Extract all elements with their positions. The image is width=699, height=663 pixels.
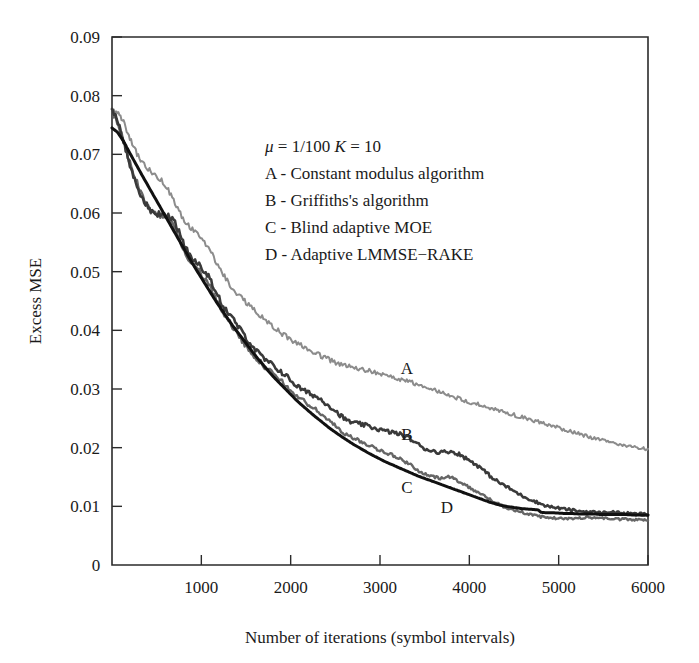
curve-label-b: B: [401, 425, 412, 444]
curve-label-a: A: [401, 359, 414, 378]
x-tick-label: 1000: [184, 578, 218, 597]
y-tick-label: 0.06: [70, 204, 100, 223]
k-value: = 10: [346, 137, 381, 156]
y-tick-label: 0.01: [70, 497, 100, 516]
x-tick-label: 2000: [274, 578, 308, 597]
y-tick-label: 0.04: [70, 321, 100, 340]
x-tick-label: 4000: [452, 578, 486, 597]
y-tick-label: 0.09: [70, 28, 100, 47]
x-tick-label: 5000: [542, 578, 576, 597]
legend-entry-c: C - Blind adaptive MOE: [265, 218, 432, 237]
excess-mse-line-chart: 0100020003000400050006000 0.010.020.030.…: [0, 0, 699, 663]
y-tick-label: 0.05: [70, 263, 100, 282]
legend-entry-a: A - Constant modulus algorithm: [265, 164, 484, 183]
y-tick-label: 0.07: [70, 145, 100, 164]
curve-label-d: D: [441, 498, 453, 517]
chart-background: [0, 0, 699, 663]
mu-symbol: μ: [264, 137, 274, 156]
x-axis-title: Number of iterations (symbol intervals): [245, 628, 515, 647]
x-tick-label: 3000: [363, 578, 397, 597]
chart-figure: 0100020003000400050006000 0.010.020.030.…: [0, 0, 699, 663]
y-tick-label: 0.03: [70, 380, 100, 399]
legend-entry-b: B - Griffiths's algorithm: [265, 191, 429, 210]
x-tick-label: 6000: [631, 578, 665, 597]
legend-parameters: μ = 1/100 K = 10: [264, 137, 381, 156]
y-tick-label: 0.02: [70, 439, 100, 458]
y-tick-label: 0.08: [70, 87, 100, 106]
curve-label-c: C: [401, 478, 412, 497]
y-axis-tick-labels: 0.010.020.030.040.050.060.070.080.09: [70, 28, 100, 516]
legend-entry-d: D - Adaptive LMMSE−RAKE: [265, 245, 473, 264]
y-axis-title: Excess MSE: [26, 258, 45, 344]
x-tick-label: 0: [92, 556, 101, 575]
mu-value: = 1/100: [274, 137, 335, 156]
